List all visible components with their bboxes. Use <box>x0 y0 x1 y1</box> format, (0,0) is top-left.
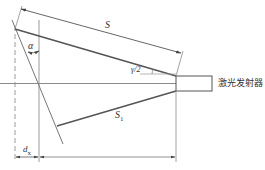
label-s: S <box>105 20 110 30</box>
s-extension-right <box>176 51 183 76</box>
s-dimension-arrow <box>21 9 181 53</box>
alpha-arc <box>28 51 39 53</box>
label-laser-emitter: 激光发射器 <box>218 79 263 88</box>
label-alpha: α <box>28 41 33 51</box>
label-dx: dx <box>23 145 31 157</box>
label-half-angle: γ/2 <box>131 66 140 74</box>
label-s1-sub: 1 <box>120 115 124 123</box>
laser-emitter-box <box>176 76 212 91</box>
label-dx-sub: x <box>28 149 32 157</box>
label-s1: S1 <box>115 110 124 123</box>
target-surface-line <box>12 20 63 144</box>
